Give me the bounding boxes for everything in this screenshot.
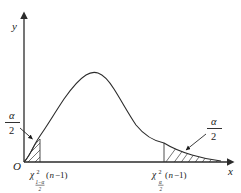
x-axis-label: x [227, 165, 233, 177]
figure-background [0, 0, 241, 193]
right-chi-superscript: 2 [159, 169, 162, 175]
right-arg-var: n [169, 170, 174, 180]
right-arg-rest: −1) [174, 170, 187, 180]
left-chi-subscript-denominator: 2 [39, 186, 42, 192]
right-alpha-numerator: α [211, 116, 217, 127]
y-axis-label: y [11, 20, 17, 32]
right-chi-subscript-denominator: 2 [160, 186, 163, 192]
left-chi-subscript-numerator: 1−α [36, 179, 45, 185]
left-alpha-denominator: 2 [9, 125, 14, 136]
left-chi-symbol: χ [29, 170, 35, 180]
origin-label: O [13, 160, 21, 172]
left-arg-rest: −1) [55, 170, 68, 180]
left-arg-var: n [50, 170, 55, 180]
right-alpha-denominator: 2 [211, 131, 216, 142]
right-chi-symbol: χ [151, 170, 157, 180]
left-chi-superscript: 2 [37, 169, 40, 175]
left-alpha-numerator: α [9, 110, 15, 121]
right-chi-subscript-numerator: α [159, 179, 162, 185]
chi-square-figure: y x O α 2 α 2 χ 2 1−α 2 ( n −1) [0, 0, 241, 193]
chi-square-plot: y x O α 2 α 2 χ 2 1−α 2 ( n −1) [0, 0, 241, 193]
